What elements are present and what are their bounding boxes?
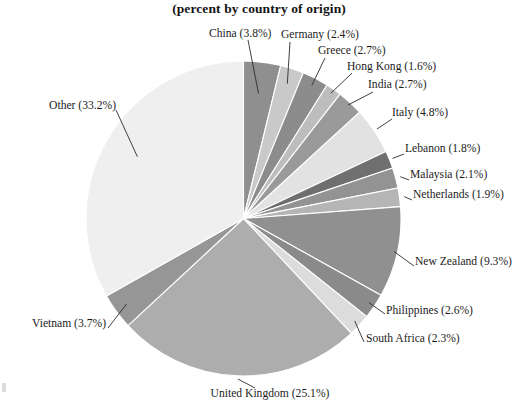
slice-label-vietnam: Vietnam (3.7%) [10, 318, 106, 330]
leader-line [394, 252, 414, 266]
slice-label-new-zealand: New Zealand (9.3%) [415, 256, 512, 268]
slice-label-hong-kong: Hong Kong (1.6%) [347, 61, 436, 73]
leader-line [331, 73, 352, 93]
slice-label-philippines: Philippines (2.6%) [386, 305, 473, 317]
slice-label-china: China (3.8%) [209, 28, 271, 40]
leader-line [400, 177, 409, 180]
slice-label-greece: Greece (2.7%) [318, 45, 386, 57]
leader-line [377, 119, 392, 129]
slice-label-malaysia: Malaysia (2.1%) [410, 169, 487, 181]
slice-label-united-kingdom: United Kingdom (25.1%) [180, 388, 360, 400]
slice-label-south-africa: South Africa (2.3%) [366, 333, 460, 345]
pie-slice-group [86, 61, 401, 376]
leader-line [348, 92, 373, 105]
slice-label-netherlands: Netherlands (1.9%) [413, 189, 504, 201]
slice-label-other: Other (33.2%) [24, 100, 116, 112]
slice-label-india: India (2.7%) [368, 79, 427, 91]
pie-chart-graphic [0, 0, 518, 407]
page-scan-artifact [2, 383, 6, 392]
slice-label-lebanon: Lebanon (1.8%) [405, 143, 480, 155]
pie-chart-figure: (percent by country of origin) Other (33… [0, 0, 518, 407]
leader-line [392, 154, 404, 158]
leader-line [404, 197, 412, 200]
slice-label-germany: Germany (2.4%) [281, 29, 359, 41]
slice-label-italy: Italy (4.8%) [392, 107, 448, 119]
